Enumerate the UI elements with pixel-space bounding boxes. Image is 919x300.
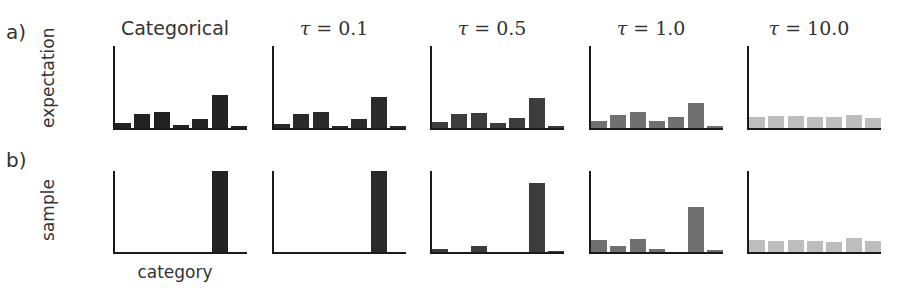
bar-category-5 — [192, 119, 208, 128]
panel-expectation-1 — [113, 46, 247, 130]
tau-symbol: τ — [300, 17, 311, 39]
tau-value: = 1.0 — [627, 17, 685, 39]
bar-category-5 — [668, 117, 684, 128]
bar-category-2 — [768, 241, 784, 252]
bar-category-3 — [788, 240, 804, 252]
x-axis-line — [113, 252, 247, 254]
bar-category-6 — [688, 207, 704, 252]
panel-sample-5 — [747, 171, 881, 254]
panel-sample-1 — [113, 171, 247, 254]
bar-category-1 — [591, 240, 607, 252]
y-axis-line — [747, 46, 749, 130]
bar-category-6 — [846, 238, 862, 252]
tau-symbol: τ — [617, 17, 628, 39]
bar-category-3 — [154, 112, 170, 128]
x-axis-line — [589, 128, 723, 130]
bar-category-6 — [212, 95, 228, 128]
x-axis-line — [747, 252, 881, 254]
panel-expectation-4 — [589, 46, 723, 130]
bar-category-6 — [529, 183, 545, 252]
bar-category-3 — [630, 112, 646, 128]
bar-category-2 — [134, 114, 150, 128]
panel-sample-3 — [430, 171, 564, 254]
x-axis-line — [272, 128, 406, 130]
x-axis-line — [272, 252, 406, 254]
y-axis-line — [589, 46, 591, 130]
bar-category-6 — [371, 171, 387, 252]
ylabel-expectation: expectation — [38, 28, 58, 128]
bar-category-3 — [313, 112, 329, 128]
bar-category-2 — [768, 116, 784, 128]
bar-category-7 — [865, 118, 881, 128]
bar-category-6 — [688, 103, 704, 128]
x-axis-line — [430, 252, 564, 254]
xlabel-category: category — [105, 262, 245, 282]
x-axis-line — [589, 252, 723, 254]
bar-category-6 — [846, 115, 862, 128]
bar-category-1 — [749, 240, 765, 252]
tau-value: = 0.1 — [310, 17, 368, 39]
y-axis-line — [272, 46, 274, 130]
panel-expectation-2 — [272, 46, 406, 130]
column-title-categorical: Categorical — [105, 17, 245, 39]
y-axis-line — [430, 46, 432, 130]
bar-category-4 — [649, 121, 665, 128]
bar-category-6 — [212, 171, 228, 252]
ylabel-sample: sample — [38, 170, 58, 250]
panel-expectation-5 — [747, 46, 881, 130]
bar-category-5 — [351, 119, 367, 128]
y-axis-line — [272, 171, 274, 254]
panel-sample-2 — [272, 171, 406, 254]
bar-category-6 — [529, 98, 545, 128]
bar-category-4 — [807, 241, 823, 252]
bar-category-2 — [610, 115, 626, 128]
panel-sample-4 — [589, 171, 723, 254]
column-title-tau-10.0: τ = 10.0 — [739, 17, 879, 39]
tau-symbol: τ — [458, 17, 469, 39]
x-axis-line — [430, 128, 564, 130]
bar-category-5 — [509, 118, 525, 128]
column-title-tau-0.5: τ = 0.5 — [422, 17, 562, 39]
bar-category-7 — [865, 241, 881, 252]
bar-category-3 — [630, 239, 646, 252]
tau-value: = 10.0 — [779, 17, 849, 39]
y-axis-line — [747, 171, 749, 254]
column-title-tau-0.1: τ = 0.1 — [264, 17, 404, 39]
y-axis-line — [589, 171, 591, 254]
bar-category-2 — [293, 114, 309, 128]
y-axis-line — [113, 171, 115, 254]
bar-category-2 — [451, 114, 467, 128]
column-title-tau-1.0: τ = 1.0 — [581, 17, 721, 39]
bar-category-1 — [591, 121, 607, 128]
row-label-a: a) — [6, 20, 26, 44]
bar-category-3 — [471, 113, 487, 128]
bar-category-5 — [826, 242, 842, 252]
bar-category-3 — [788, 116, 804, 128]
bar-category-1 — [749, 117, 765, 128]
y-axis-line — [113, 46, 115, 130]
y-axis-line — [430, 171, 432, 254]
tau-value: = 0.5 — [468, 17, 526, 39]
bar-category-5 — [826, 117, 842, 128]
x-axis-line — [747, 128, 881, 130]
row-label-b: b) — [6, 148, 27, 172]
bar-category-6 — [371, 97, 387, 128]
bar-category-4 — [807, 117, 823, 128]
tau-symbol: τ — [769, 17, 780, 39]
panel-expectation-3 — [430, 46, 564, 130]
x-axis-line — [113, 128, 247, 130]
